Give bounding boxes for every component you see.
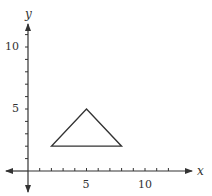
y-tick-label-5: 5 bbox=[12, 102, 19, 115]
triangle-shape bbox=[51, 109, 121, 146]
coordinate-plane: 5 10 5 10 x y bbox=[0, 0, 212, 196]
x-tick-label-5: 5 bbox=[83, 178, 90, 191]
x-tick-label-10: 10 bbox=[138, 178, 152, 191]
y-axis-label: y bbox=[24, 7, 32, 21]
x-axis-label: x bbox=[197, 164, 204, 178]
y-tick-label-10: 10 bbox=[5, 40, 19, 53]
